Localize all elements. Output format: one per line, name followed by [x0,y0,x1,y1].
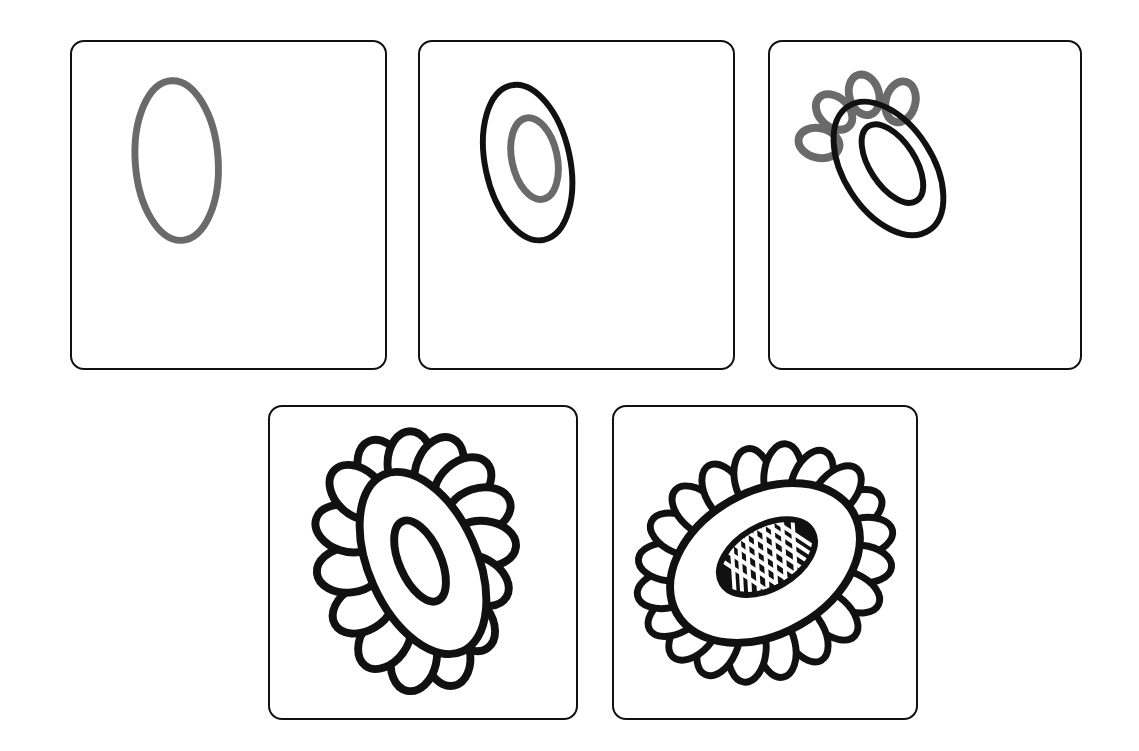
tutorial-panel-step-5 [612,405,918,720]
tutorial-panel-step-2 [418,40,735,370]
step-4-drawing [270,407,576,718]
outer-oval-shape [470,76,586,248]
step-2-drawing [420,42,733,368]
outer-oval-shape [130,78,224,243]
outer-oval-shape [811,82,966,255]
drawing-tutorial-canvas: Five-step line drawing tutorial showing … [0,0,1139,751]
tutorial-panel-step-1 [70,40,387,370]
inner-oval-shape [849,114,935,213]
tutorial-panel-step-4 [268,405,578,720]
petals-group-new [775,45,935,186]
inner-oval-shape [504,113,566,204]
step-1-drawing [72,42,385,368]
step-3-drawing [770,42,1080,368]
step-5-drawing [614,407,916,718]
tutorial-panel-step-3 [768,40,1082,370]
